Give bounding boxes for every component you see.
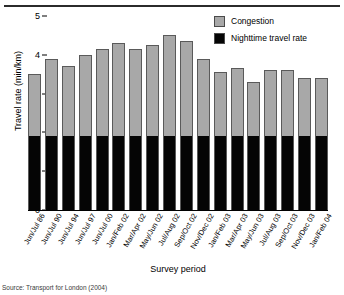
bar-segment-nighttime <box>63 136 74 210</box>
bar-segment-nighttime <box>46 136 57 210</box>
bar <box>79 55 92 210</box>
bar-segment-nighttime <box>80 136 91 210</box>
bar-segment-nighttime <box>316 136 327 210</box>
bar-segment-nighttime <box>232 136 243 210</box>
bar-segment-nighttime <box>198 136 209 210</box>
bar <box>298 78 311 210</box>
bar <box>28 74 41 210</box>
chart-figure: Congestion Nighttime travel rate Travel … <box>0 0 344 295</box>
bar <box>247 82 260 210</box>
bar <box>180 41 193 210</box>
x-axis-title: Survey period <box>28 264 328 274</box>
bar <box>315 78 328 210</box>
bar-segment-nighttime <box>147 136 158 210</box>
source-note: Source: Transport for London (2004) <box>2 284 107 291</box>
bar <box>146 45 159 210</box>
bar <box>197 59 210 210</box>
bar <box>129 49 142 210</box>
bar-segment-nighttime <box>181 136 192 210</box>
bar-segment-nighttime <box>97 136 108 210</box>
bar-segment-nighttime <box>282 136 293 210</box>
bar <box>62 66 75 210</box>
plot-area <box>28 16 328 210</box>
bar <box>214 72 227 210</box>
bar <box>112 43 125 210</box>
bar-segment-nighttime <box>265 136 276 210</box>
bar-segment-nighttime <box>299 136 310 210</box>
bar <box>163 35 176 210</box>
bar-segment-nighttime <box>29 136 40 210</box>
bar-series <box>28 16 328 210</box>
bar <box>281 70 294 210</box>
top-divider <box>4 5 340 7</box>
bar-segment-nighttime <box>113 136 124 210</box>
bar <box>264 70 277 210</box>
bar-segment-nighttime <box>215 136 226 210</box>
bar <box>231 68 244 210</box>
x-axis-line <box>28 210 328 211</box>
bar <box>45 59 58 210</box>
bar-segment-nighttime <box>164 136 175 210</box>
bar <box>96 49 109 210</box>
bar-segment-nighttime <box>130 136 141 210</box>
bar-segment-nighttime <box>248 136 259 210</box>
